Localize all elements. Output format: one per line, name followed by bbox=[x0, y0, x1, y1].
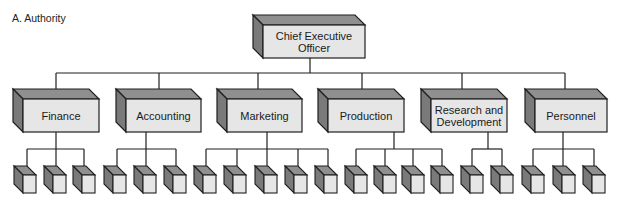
subunit-cube bbox=[374, 166, 396, 193]
subunit-cube bbox=[315, 166, 337, 193]
ceo-label-line1: Chief Executive bbox=[276, 30, 352, 42]
dept-label-rd-line1: Research and bbox=[435, 104, 504, 116]
dept-label-personnel: Personnel bbox=[535, 99, 607, 132]
subunit-cube bbox=[44, 166, 66, 193]
subunit-cube bbox=[522, 166, 544, 193]
dept-label-research-development: Research and Development bbox=[431, 99, 507, 132]
subunit-cube bbox=[431, 166, 453, 193]
connector-lines bbox=[27, 58, 594, 170]
subunit-cube bbox=[194, 166, 216, 193]
subunit-cube bbox=[402, 166, 424, 193]
subunit-cube bbox=[583, 166, 605, 193]
dept-label-marketing: Marketing bbox=[227, 99, 302, 132]
subunit-cube bbox=[285, 166, 307, 193]
dept-label-finance: Finance bbox=[23, 99, 99, 132]
subunit-cube bbox=[491, 166, 513, 193]
dept-label-accounting: Accounting bbox=[126, 99, 201, 132]
subunit-cube bbox=[104, 166, 126, 193]
department-boxes bbox=[13, 89, 607, 132]
subunit-cube bbox=[553, 166, 575, 193]
subunit-cube bbox=[461, 166, 483, 193]
subunit-cube bbox=[73, 166, 95, 193]
dept-label-rd-line2: Development bbox=[437, 116, 502, 128]
dept-label-production: Production bbox=[328, 99, 404, 132]
subunit-cube bbox=[164, 166, 186, 193]
ceo-label-line2: Officer bbox=[298, 42, 330, 54]
subunit-cube bbox=[134, 166, 156, 193]
subunit-cube bbox=[345, 166, 367, 193]
subunit-cube bbox=[14, 166, 36, 193]
ceo-label: Chief Executive Officer bbox=[263, 25, 365, 58]
subunit-cube bbox=[224, 166, 246, 193]
subunit-cube bbox=[255, 166, 277, 193]
subunit-cubes bbox=[14, 166, 605, 193]
